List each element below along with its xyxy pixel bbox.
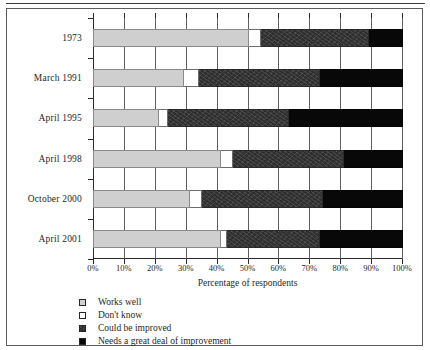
gridline: [278, 18, 279, 259]
bar-segment: [93, 150, 221, 168]
legend-item: Could be improved: [79, 322, 379, 334]
stacked-bar: [93, 109, 402, 127]
x-axis-tick-labels: 0%10%20%30%40%50%60%70%80%90%100%: [93, 263, 402, 277]
legend-label: Don't know: [98, 310, 142, 320]
legend-swatch-icon: [79, 312, 86, 319]
bar-segment: [319, 230, 403, 248]
stacked-bar: [93, 190, 402, 208]
stacked-bar: [93, 29, 402, 47]
axis-tick: [217, 13, 218, 18]
gridline: [340, 18, 341, 259]
bar-segment: [189, 190, 202, 208]
x-tick-label: 80%: [332, 263, 348, 273]
bar-segment: [343, 150, 403, 168]
x-tick-label: 70%: [302, 263, 318, 273]
bar-segment: [248, 29, 261, 47]
legend-swatch-icon: [79, 338, 86, 345]
y-axis-label: 1973: [62, 29, 82, 47]
axis-tick: [371, 13, 372, 18]
x-tick-label: 50%: [240, 263, 256, 273]
chart-figure: 1973March 1991April 1995April 1998Octobe…: [0, 0, 430, 350]
axis-tick: [186, 13, 187, 18]
y-axis-label: April 1995: [39, 109, 82, 127]
y-axis-tick: [88, 139, 93, 140]
bar-segment: [93, 29, 249, 47]
x-tick-label: 0%: [87, 263, 98, 273]
gridline: [309, 18, 310, 259]
legend-swatch-icon: [79, 325, 86, 332]
bar-segment: [201, 190, 323, 208]
y-axis-tick: [88, 219, 93, 220]
bar-segment: [322, 190, 403, 208]
x-tick-label: 100%: [392, 263, 412, 273]
y-axis-label: April 1998: [39, 150, 82, 168]
y-axis-label: April 2001: [39, 230, 82, 248]
bar-segment: [226, 230, 320, 248]
bar-segment: [93, 109, 159, 127]
stacked-bar: [93, 69, 402, 87]
bar-segment: [158, 109, 168, 127]
bar-segment: [183, 69, 199, 87]
plot-area: [93, 18, 402, 259]
page-rule-top: [6, 3, 425, 4]
gridline: [248, 18, 249, 259]
bar-segment: [220, 230, 227, 248]
bar-segment: [93, 230, 221, 248]
bar-segment: [260, 29, 369, 47]
y-axis-tick: [88, 58, 93, 59]
bar-segment: [220, 150, 233, 168]
stacked-bar: [93, 150, 402, 168]
axis-tick: [278, 13, 279, 18]
legend-label: Works well: [98, 297, 141, 307]
legend-label: Could be improved: [98, 323, 171, 333]
y-axis-tick: [88, 18, 93, 19]
y-axis-category-labels: 1973March 1991April 1995April 1998Octobe…: [0, 18, 88, 259]
axis-tick: [309, 13, 310, 18]
bar-segment: [167, 109, 289, 127]
bar-segment: [93, 190, 190, 208]
axis-tick: [340, 13, 341, 18]
gridline: [124, 18, 125, 259]
legend-item: Works well: [79, 296, 379, 308]
bar-segment: [93, 69, 184, 87]
axis-tick: [402, 13, 403, 18]
gridline: [217, 18, 218, 259]
bar-segment: [288, 109, 403, 127]
gridline: [186, 18, 187, 259]
stacked-bar: [93, 230, 402, 248]
legend-item: Don't know: [79, 309, 379, 321]
y-axis-tick: [88, 179, 93, 180]
legend-label: Needs a great deal of improvement: [98, 336, 231, 346]
bar-segment: [368, 29, 403, 47]
chart-legend: Works wellDon't knowCould be improvedNee…: [79, 296, 379, 348]
y-axis-tick: [88, 259, 93, 260]
x-tick-label: 60%: [271, 263, 287, 273]
legend-item: Needs a great deal of improvement: [79, 335, 379, 347]
bar-segment: [319, 69, 403, 87]
x-tick-label: 40%: [209, 263, 225, 273]
y-axis-tick: [88, 98, 93, 99]
x-tick-label: 90%: [363, 263, 379, 273]
axis-tick: [124, 13, 125, 18]
axis-tick: [93, 13, 94, 18]
gridline: [402, 18, 403, 259]
x-axis-title: Percentage of respondents: [93, 278, 402, 288]
gridline: [155, 18, 156, 259]
axis-tick: [248, 13, 249, 18]
x-tick-label: 30%: [178, 263, 194, 273]
y-axis-label: October 2000: [28, 190, 82, 208]
gridline: [371, 18, 372, 259]
y-axis-label: March 1991: [34, 69, 82, 87]
bar-segment: [198, 69, 320, 87]
legend-swatch-icon: [79, 299, 86, 306]
x-tick-label: 10%: [116, 263, 132, 273]
x-tick-label: 20%: [147, 263, 163, 273]
axis-tick: [155, 13, 156, 18]
bar-segment: [232, 150, 344, 168]
